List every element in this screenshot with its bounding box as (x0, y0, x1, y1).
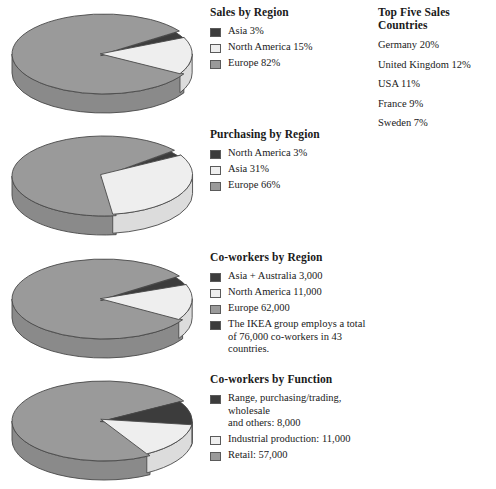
legend-label: Range, purchasing/trading, wholesale and… (228, 392, 380, 430)
legend-label: Europe 82% (228, 57, 280, 70)
legend-list: Range, purchasing/trading, wholesale and… (210, 392, 380, 462)
legend-swatch-dark (210, 395, 221, 404)
legend-item: Asia 3% (210, 25, 380, 38)
country-item: United Kingdom 12% (378, 59, 496, 71)
legend-item: Asia + Australia 3,000 (210, 270, 380, 283)
legend-coworkers-by-function: Co-workers by Function Range, purchasing… (210, 373, 380, 465)
country-list: Germany 20%United Kingdom 12%USA 11%Fran… (378, 39, 496, 129)
pie-chart-sales-by-region (4, 6, 204, 118)
legend-swatch-mid (210, 182, 221, 191)
chart-block-coworkers-by-function: Co-workers by Function Range, purchasing… (0, 367, 496, 489)
chart-block-sales-by-region: Sales by Region Asia 3%North America 15%… (0, 0, 496, 122)
legend-title: Sales by Region (210, 6, 380, 19)
legend-swatch-dark (210, 28, 221, 37)
legend-title: Co-workers by Region (210, 251, 380, 264)
legend-swatch-mid (210, 60, 221, 69)
legend-label: North America 3% (228, 147, 307, 160)
legend-item: Europe 62,000 (210, 302, 380, 315)
legend-swatch-mid (210, 305, 221, 314)
pie-chart-coworkers-by-function (4, 373, 204, 485)
legend-label: The IKEA group employs a total of 76,000… (228, 318, 380, 356)
country-item: Germany 20% (378, 39, 496, 51)
legend-item: Asia 31% (210, 163, 380, 176)
pie-chart-coworkers-by-region (4, 251, 204, 363)
country-item: France 9% (378, 98, 496, 110)
legend-label: Industrial production: 11,000 (228, 433, 350, 446)
legend-item: Industrial production: 11,000 (210, 433, 380, 446)
legend-swatch-dark (210, 321, 221, 330)
legend-swatch-light (210, 436, 221, 445)
legend-label: North America 11,000 (228, 286, 322, 299)
chart-block-purchasing-by-region: Purchasing by Region North America 3%Asi… (0, 122, 496, 244)
legend-item: North America 3% (210, 147, 380, 160)
top-five-sales-countries-panel: Top Five Sales Countries Germany 20%Unit… (378, 6, 496, 137)
legend-label: North America 15% (228, 41, 313, 54)
legend-title: Co-workers by Function (210, 373, 380, 386)
legend-label: Asia 31% (228, 163, 269, 176)
legend-purchasing-by-region: Purchasing by Region North America 3%Asi… (210, 128, 380, 195)
legend-label: Retail: 57,000 (228, 449, 288, 462)
ikea-statistics-page: Sales by Region Asia 3%North America 15%… (0, 0, 496, 489)
legend-item: The IKEA group employs a total of 76,000… (210, 318, 380, 356)
legend-swatch-mid (210, 452, 221, 461)
legend-item: Retail: 57,000 (210, 449, 380, 462)
legend-title: Purchasing by Region (210, 128, 380, 141)
legend-list: North America 3%Asia 31%Europe 66% (210, 147, 380, 192)
legend-swatch-light (210, 289, 221, 298)
legend-list: Asia 3%North America 15%Europe 82% (210, 25, 380, 70)
legend-item: Range, purchasing/trading, wholesale and… (210, 392, 380, 430)
legend-item: Europe 66% (210, 179, 380, 192)
legend-swatch-light (210, 44, 221, 53)
legend-label: Europe 66% (228, 179, 280, 192)
legend-swatch-dark (210, 150, 221, 159)
panel-title: Top Five Sales Countries (378, 6, 496, 32)
legend-item: Europe 82% (210, 57, 380, 70)
legend-coworkers-by-region: Co-workers by Region Asia + Australia 3,… (210, 251, 380, 359)
legend-sales-by-region: Sales by Region Asia 3%North America 15%… (210, 6, 380, 73)
chart-block-coworkers-by-region: Co-workers by Region Asia + Australia 3,… (0, 245, 496, 367)
legend-label: Asia + Australia 3,000 (228, 270, 323, 283)
legend-swatch-light (210, 166, 221, 175)
legend-swatch-dark (210, 273, 221, 282)
legend-list: Asia + Australia 3,000North America 11,0… (210, 270, 380, 356)
country-item: USA 11% (378, 78, 496, 90)
pie-chart-purchasing-by-region (4, 128, 204, 240)
legend-label: Europe 62,000 (228, 302, 290, 315)
legend-item: North America 11,000 (210, 286, 380, 299)
legend-label: Asia 3% (228, 25, 264, 38)
legend-item: North America 15% (210, 41, 380, 54)
